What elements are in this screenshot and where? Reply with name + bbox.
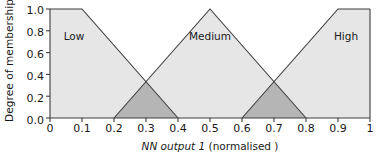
x-tick-label: 1 [353,123,383,134]
x-tick-label: 0.4 [161,123,195,134]
fuzzy-membership-chart: Degree of membership 1.0 0.8 0.6 0.4 0.2… [0,0,383,160]
x-tick-label: 0.6 [225,123,259,134]
x-tick-label: 0.9 [321,123,355,134]
x-axis-tick-labels: 00.10.20.30.40.50.60.70.80.91 [0,0,383,160]
x-tick-label: 0.1 [65,123,99,134]
x-tick-label: 0.3 [129,123,163,134]
x-tick-label: 0.2 [97,123,131,134]
x-axis-label: NN output 1 (normalised ) [48,140,372,152]
x-axis-label-rest: (normalised ) [205,140,278,152]
x-tick-label: 0.8 [289,123,323,134]
x-axis-label-italic: NN output 1 [142,140,206,152]
x-tick-label: 0.5 [193,123,227,134]
x-tick-label: 0.7 [257,123,291,134]
x-tick-label: 0 [33,123,67,134]
